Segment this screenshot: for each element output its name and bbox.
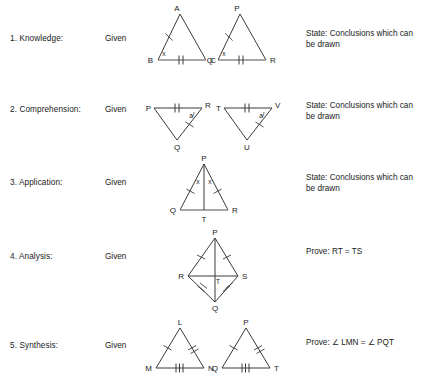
figure-kite-prqs: P R S Q T [176,228,254,314]
figure-triangle-pqr-inverted: P R Q a [144,98,212,153]
figure-triangle-tuv-inverted: T V U a [214,98,282,153]
figure-triangle-pqt: P Q T [214,316,278,378]
vertex-label-r: R [232,206,238,215]
vertex-label-p: P [201,154,206,163]
vertex-label-p: P [234,4,239,13]
vertex-label-r: R [205,101,211,110]
vertex-label-p: P [212,228,217,237]
vertex-label-u: U [244,143,250,152]
vertex-label-b: B [148,56,153,65]
level-label-comprehension: 2. Comprehension: [10,105,81,114]
vertex-label-q: Q [174,143,180,152]
level-label-knowledge: 1. Knowledge: [10,34,63,43]
given-label-synthesis: Given [105,341,126,350]
task-synthesis: Prove: ∠ LMN = ∠ PQT [306,337,394,348]
vertex-label-q: Q [170,206,176,215]
task-comprehension: State: Conclusions which can be drawn [306,100,413,122]
vertex-label-q: Q [212,364,218,373]
given-label-knowledge: Given [105,34,126,43]
vertex-label-a: A [174,4,180,13]
task-knowledge: State: Conclusions which can be drawn [306,28,413,50]
vertex-label-m: M [145,364,152,373]
angle-label-r: a [189,112,193,119]
level-label-application: 3. Application: [10,178,62,187]
vertex-label-t: T [274,364,279,373]
vertex-label-r: R [270,56,276,65]
vertex-label-t: T [216,104,221,113]
vertex-label-q: Q [207,56,213,65]
vertex-label-q: Q [212,304,218,313]
level-label-analysis: 4. Analysis: [10,252,53,261]
figure-triangle-lmn: L M N [148,316,212,378]
vertex-label-t: T [216,278,220,285]
vertex-label-l: L [178,318,183,327]
task-analysis: Prove: RT = TS [306,246,362,257]
vertex-label-t: T [202,215,207,224]
vertex-label-p: P [243,318,248,327]
vertex-label-r: R [178,272,184,281]
figure-triangle-pqr-altitude: P Q R T x x [168,152,240,224]
figure-triangle-pqr-row1: P Q R x [208,2,272,72]
vertex-label-p: P [146,104,151,113]
given-label-analysis: Given [105,252,126,261]
angle-label-v: a [259,112,263,119]
figure-triangle-abc: A B C x [148,2,212,72]
given-label-comprehension: Given [105,105,126,114]
angle-label-q: x [222,50,226,57]
level-label-synthesis: 5. Synthesis: [10,341,58,350]
vertex-label-v: V [275,101,281,110]
angle-label-p-left: x [196,178,200,185]
task-application: State: Conclusions which can be drawn [306,172,413,194]
vertex-label-s: S [242,272,247,281]
angle-label-b: x [162,50,166,57]
given-label-application: Given [105,178,126,187]
